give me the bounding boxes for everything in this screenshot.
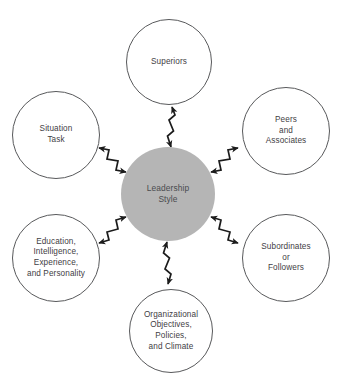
node-label-education-intelligence: Education, Intelligence, Experience, and… [26,237,86,279]
connector-situation [99,148,126,172]
connector-organizational [164,242,172,284]
node-education-intelligence[interactable]: Education, Intelligence, Experience, and… [12,214,100,302]
node-label-situation-task: Situation Task [39,124,74,145]
node-label-peers-and-associates: Peers and Associates [265,115,308,147]
leadership-style-diagram: Leadership Style Superiors Peers and Ass… [0,0,342,377]
connector-education [99,217,126,243]
node-label-leadership-style: Leadership Style [146,183,190,205]
node-superiors[interactable]: Superiors [126,19,212,105]
node-label-organizational-objectives: Organizational Objectives, Policies, and… [143,310,199,352]
node-organizational-objectives[interactable]: Organizational Objectives, Policies, and… [129,289,213,373]
node-situation-task[interactable]: Situation Task [12,91,100,179]
node-leadership-style[interactable]: Leadership Style [121,147,215,241]
connector-peers [211,148,238,172]
node-peers-and-associates[interactable]: Peers and Associates [242,87,330,175]
node-label-subordinates-or-followers: Subordinates or Followers [260,242,311,274]
node-label-superiors: Superiors [150,57,188,68]
connector-superiors [168,107,176,147]
node-subordinates-or-followers[interactable]: Subordinates or Followers [242,214,330,302]
connector-subordinates [211,217,238,243]
